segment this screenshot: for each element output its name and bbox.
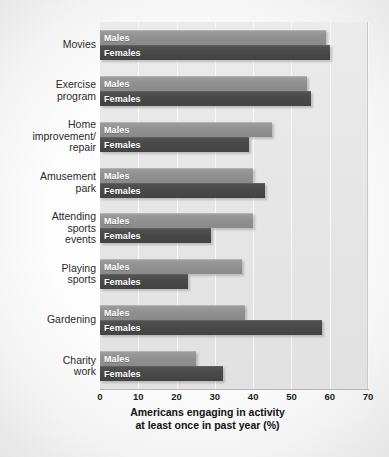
bar-series-label: Females [100,94,141,104]
x-axis-title: Americans engaging in activity at least … [0,406,389,432]
x-tick-label: 70 [363,391,374,402]
bar-group: MalesFemales [100,305,368,335]
bar-males[interactable]: Males [100,76,307,91]
bar-males[interactable]: Males [100,259,242,274]
bar-series-label: Females [100,369,141,379]
x-axis-ticks: 010203040506070 [100,391,368,405]
bar-series-label: Females [100,48,141,58]
bar-group: MalesFemales [100,213,368,243]
bar-group: MalesFemales [100,122,368,152]
category-axis-labels: MoviesExercise programHome improvement/ … [0,22,96,389]
x-axis-line [100,389,369,390]
bar-series-label: Males [100,33,130,43]
gridline [368,22,369,389]
bar-chart-figure: MoviesExercise programHome improvement/ … [0,0,389,457]
x-tick-label: 60 [324,391,335,402]
category-label: Movies [0,39,96,51]
category-label: Home improvement/ repair [0,119,96,154]
bar-groups: MalesFemalesMalesFemalesMalesFemalesMale… [100,22,368,389]
bar-males[interactable]: Males [100,122,272,137]
bar-females[interactable]: Females [100,45,330,60]
category-label: Amusement park [0,171,96,194]
bar-females[interactable]: Females [100,228,211,243]
bar-males[interactable]: Males [100,168,253,183]
x-tick-label: 10 [133,391,144,402]
category-label: Charity work [0,355,96,378]
bar-series-label: Males [100,79,130,89]
bar-series-label: Females [100,231,141,241]
bar-series-label: Males [100,216,130,226]
bar-group: MalesFemales [100,351,368,381]
category-label: Playing sports [0,263,96,286]
bar-series-label: Males [100,125,130,135]
bar-males[interactable]: Males [100,30,326,45]
bar-males[interactable]: Males [100,305,245,320]
bar-females[interactable]: Females [100,320,322,335]
x-tick-label: 40 [248,391,259,402]
category-label: Gardening [0,314,96,326]
bar-females[interactable]: Females [100,91,311,106]
bar-females[interactable]: Females [100,366,223,381]
category-label: Attending sports events [0,211,96,246]
bar-males[interactable]: Males [100,351,196,366]
bar-group: MalesFemales [100,30,368,60]
bar-series-label: Females [100,277,141,287]
bar-series-label: Males [100,262,130,272]
bar-series-label: Females [100,140,141,150]
bar-series-label: Females [100,186,141,196]
bar-females[interactable]: Females [100,274,188,289]
x-tick-label: 20 [171,391,182,402]
category-label: Exercise program [0,79,96,102]
bar-group: MalesFemales [100,259,368,289]
bar-group: MalesFemales [100,168,368,198]
bar-series-label: Males [100,354,130,364]
bar-females[interactable]: Females [100,137,249,152]
x-tick-label: 0 [97,391,102,402]
bar-series-label: Females [100,323,141,333]
x-tick-label: 30 [210,391,221,402]
bar-females[interactable]: Females [100,183,265,198]
bar-series-label: Males [100,308,130,318]
bar-group: MalesFemales [100,76,368,106]
x-tick-label: 50 [286,391,297,402]
bar-males[interactable]: Males [100,213,253,228]
bar-series-label: Males [100,171,130,181]
